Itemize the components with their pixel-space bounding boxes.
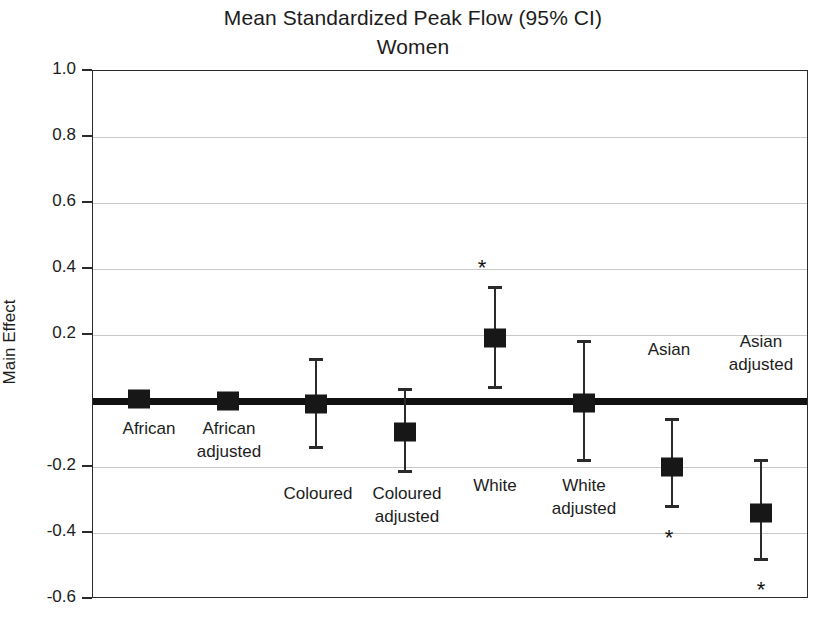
error-bar-cap-lower <box>577 459 591 462</box>
significance-star: * <box>478 257 487 279</box>
category-label-line: Asian <box>648 338 691 361</box>
y-tick-label: 0.4 <box>8 257 76 277</box>
gridline <box>93 203 807 204</box>
error-bar-cap-upper <box>488 286 502 289</box>
zero-line <box>93 398 807 405</box>
category-label-line: White <box>473 474 516 497</box>
category-label: African <box>123 417 176 440</box>
y-tick-label: 0.2 <box>8 323 76 343</box>
significance-star: * <box>665 527 674 549</box>
data-point-marker[interactable] <box>484 329 506 348</box>
error-bar-cap-lower <box>488 386 502 389</box>
y-tick-mark <box>82 465 92 467</box>
y-tick-label: -0.4 <box>8 521 76 541</box>
error-bar-cap-lower <box>309 446 323 449</box>
data-point-marker[interactable] <box>661 458 683 477</box>
gridline <box>93 533 807 534</box>
category-label: Colouredadjusted <box>373 482 442 528</box>
data-point-marker[interactable] <box>750 504 772 523</box>
data-point-marker[interactable] <box>394 423 416 442</box>
error-bar-cap-upper <box>754 459 768 462</box>
y-tick-label: 0.6 <box>8 191 76 211</box>
y-tick-label: -0.2 <box>8 455 76 475</box>
gridline <box>93 467 807 468</box>
y-tick-mark <box>82 333 92 335</box>
category-label: Coloured <box>284 482 353 505</box>
category-label-line: adjusted <box>197 440 261 463</box>
error-bar-cap-upper <box>309 358 323 361</box>
error-bar-cap-upper <box>665 418 679 421</box>
category-label: Africanadjusted <box>197 417 261 463</box>
significance-star: * <box>757 579 766 601</box>
category-label-line: adjusted <box>373 505 442 528</box>
category-label: Asianadjusted <box>729 330 793 376</box>
y-tick-mark <box>82 69 92 71</box>
category-label-line: African <box>197 417 261 440</box>
error-bar-cap-lower <box>398 470 412 473</box>
y-tick-mark <box>82 267 92 269</box>
category-label: Whiteadjusted <box>552 474 616 520</box>
category-label-line: Asian <box>729 330 793 353</box>
category-label: Asian <box>648 338 691 361</box>
category-label-line: Coloured <box>284 482 353 505</box>
category-label: White <box>473 474 516 497</box>
y-tick-label: 1.0 <box>8 59 76 79</box>
gridline <box>93 335 807 336</box>
y-tick-mark <box>82 531 92 533</box>
error-bar-cap-lower <box>754 558 768 561</box>
gridline <box>93 269 807 270</box>
category-label-line: African <box>123 417 176 440</box>
data-point-marker[interactable] <box>305 395 327 414</box>
data-point-marker[interactable] <box>217 392 239 411</box>
category-label-line: adjusted <box>552 497 616 520</box>
y-tick-mark <box>82 135 92 137</box>
plot-area: AfricanAfricanadjustedColouredColouredad… <box>92 70 808 598</box>
chart-subtitle: Women <box>0 35 826 59</box>
figure-root: Mean Standardized Peak Flow (95% CI) Wom… <box>0 0 826 620</box>
data-point-marker[interactable] <box>573 393 595 412</box>
y-tick-label: 0.8 <box>8 125 76 145</box>
chart-title: Mean Standardized Peak Flow (95% CI) <box>0 6 826 30</box>
error-bar-cap-lower <box>665 505 679 508</box>
gridline <box>93 137 807 138</box>
y-tick-mark <box>82 201 92 203</box>
y-tick-label: -0.6 <box>8 587 76 607</box>
error-bar-cap-upper <box>577 340 591 343</box>
category-label-line: Coloured <box>373 482 442 505</box>
y-tick-mark <box>82 597 92 599</box>
category-label-line: adjusted <box>729 353 793 376</box>
data-point-marker[interactable] <box>128 390 150 409</box>
category-label-line: White <box>552 474 616 497</box>
error-bar-cap-upper <box>398 388 412 391</box>
